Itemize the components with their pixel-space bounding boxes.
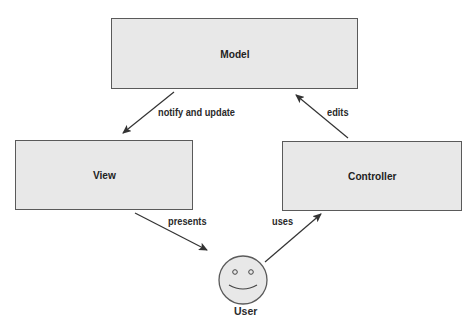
- edge-label-notify: notify and update: [158, 106, 235, 118]
- edge-label-edits: edits: [327, 106, 349, 118]
- user-smiley-icon: [219, 256, 267, 304]
- edge-label-uses: uses: [272, 215, 293, 227]
- edge-label-presents: presents: [168, 215, 207, 227]
- user-label: User: [234, 305, 257, 317]
